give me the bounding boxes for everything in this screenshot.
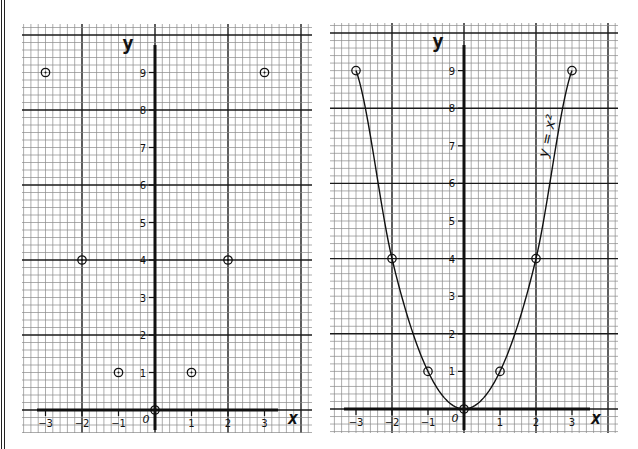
parabola-panel: 123456789−3−2−10123xyy = x² (330, 23, 618, 433)
y-tick-label: 5 (449, 216, 455, 227)
data-point-dot (154, 409, 156, 411)
data-point-dot (118, 372, 120, 374)
x-tick-label: −1 (111, 418, 126, 429)
x-axis-title: x (287, 408, 299, 428)
y-tick-label: 2 (140, 330, 146, 341)
x-tick-label: −1 (421, 417, 436, 428)
y-tick-label: 2 (449, 329, 455, 340)
curve-label: y = x² (535, 113, 560, 160)
grid (330, 23, 618, 433)
origin-label: 0 (452, 412, 459, 425)
y-tick-label: 6 (140, 180, 146, 191)
y-tick-label: 1 (449, 366, 455, 377)
x-tick-label: 3 (261, 418, 267, 429)
x-tick-label: 2 (533, 417, 539, 428)
data-point-dot (81, 259, 83, 261)
y-tick-label: 8 (140, 105, 146, 116)
y-tick-label: 3 (140, 293, 146, 304)
y-tick-label: 6 (449, 178, 455, 189)
x-tick-label: −3 (38, 418, 53, 429)
data-point-dot (264, 72, 266, 74)
x-tick-label: −2 (385, 417, 400, 428)
y-axis-title: y (122, 32, 133, 54)
x-tick-label: −2 (75, 418, 90, 429)
y-tick-label: 4 (449, 254, 455, 265)
graph-paper-figure: 123456789−3−2−10123xy 123456789−3−2−1012… (0, 0, 638, 449)
x-tick-label: 1 (188, 418, 194, 429)
y-tick-label: 1 (140, 368, 146, 379)
x-tick-label: 3 (569, 417, 575, 428)
y-tick-label: 3 (449, 291, 455, 302)
data-point-dot (227, 259, 229, 261)
x-tick-label: 1 (497, 417, 503, 428)
y-axis-title: y (432, 30, 443, 52)
y-tick-label: 8 (449, 103, 455, 114)
y-tick-label: 9 (140, 68, 146, 79)
plots-svg: 123456789−3−2−10123xy 123456789−3−2−1012… (0, 0, 638, 449)
data-point-dot (45, 72, 47, 74)
y-tick-label: 5 (140, 218, 146, 229)
grid (22, 24, 312, 433)
x-tick-label: −3 (349, 417, 364, 428)
y-tick-label: 4 (140, 255, 146, 266)
x-tick-label: 2 (225, 418, 231, 429)
page-edge-line (4, 0, 5, 449)
data-point-dot (191, 372, 193, 374)
y-tick-label: 7 (140, 143, 146, 154)
origin-label: 0 (143, 413, 150, 426)
y-tick-label: 9 (449, 66, 455, 77)
x-axis-title: x (590, 408, 602, 428)
y-tick-label: 7 (449, 141, 455, 152)
page-edge-line (1, 0, 2, 449)
scatter-panel: 123456789−3−2−10123xy (22, 24, 312, 433)
